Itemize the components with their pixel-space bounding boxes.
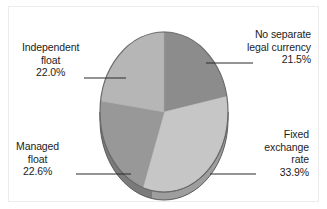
slice-label-managed-float: Managed float 22.6% <box>16 140 59 178</box>
label-line-2: legal currency <box>247 41 311 54</box>
slice-label-fixed-exchange-rate: Fixed exchange rate 33.9% <box>264 128 309 178</box>
pie-slice-independent-float[interactable] <box>101 32 164 112</box>
label-percent: 22.6% <box>16 165 59 178</box>
label-line-3: rate <box>264 153 309 166</box>
label-line-1: Independent <box>22 41 79 54</box>
slice-label-no-separate-legal-currency: No separate legal currency 21.5% <box>247 28 311 66</box>
label-line-1: No separate <box>247 28 311 41</box>
label-line-2: float <box>16 153 59 166</box>
pie-chart-figure: No separate legal currency 21.5% Indepen… <box>0 0 327 209</box>
label-line-1: Fixed <box>264 128 309 141</box>
pie-top-face-group <box>100 32 228 192</box>
label-percent: 21.5% <box>247 53 311 66</box>
slice-label-independent-float: Independent float 22.0% <box>22 41 79 79</box>
label-line-1: Managed <box>16 140 59 153</box>
label-line-2: float <box>22 54 79 67</box>
label-line-2: exchange <box>264 141 309 154</box>
label-percent: 22.0% <box>22 66 79 79</box>
label-percent: 33.9% <box>264 166 309 179</box>
